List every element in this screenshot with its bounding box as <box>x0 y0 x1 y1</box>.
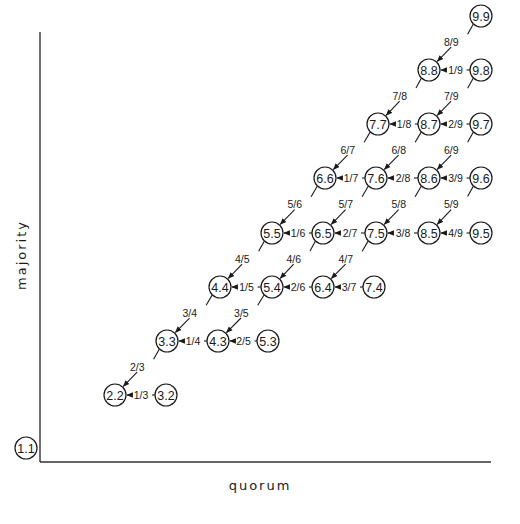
edge-7.6-to-6.5: 5/7 <box>331 186 368 224</box>
edge-5.5-to-4.4: 4/5 <box>228 241 264 278</box>
edge-9.7-to-8.7: 2/9 <box>441 118 470 130</box>
node-label: 4.3 <box>209 335 226 349</box>
node-label: 6.6 <box>316 172 333 186</box>
edge-7.5-to-6.5: 2/7 <box>335 227 365 239</box>
node-label: 9.8 <box>472 64 489 78</box>
node-4.3: 4.3 <box>207 330 229 352</box>
node-label: 5.5 <box>263 227 280 241</box>
node-3.2: 3.2 <box>155 384 177 406</box>
node-label: 6.4 <box>314 281 331 295</box>
edge-9.6-to-8.5: 5/9 <box>437 186 473 224</box>
node-label: 4.4 <box>211 281 228 295</box>
edge-label: 2/9 <box>448 118 463 130</box>
node-label: 7.7 <box>369 118 386 132</box>
edge-label: 1/3 <box>134 389 149 401</box>
node-label: 7.6 <box>367 172 384 186</box>
node-1.1: 1.1 <box>15 437 37 459</box>
edge-label: 5/7 <box>339 198 354 210</box>
edge-label: 2/7 <box>343 227 358 239</box>
node-7.5: 7.5 <box>365 222 387 244</box>
edge-label: 1/8 <box>397 118 412 130</box>
edge-label: 4/7 <box>339 253 354 265</box>
node-label: 9.9 <box>472 10 489 24</box>
edge-label: 1/4 <box>186 335 201 347</box>
node-label: 7.4 <box>365 281 382 295</box>
node-6.5: 6.5 <box>312 222 334 244</box>
edge-9.8-to-8.8: 1/9 <box>441 64 470 76</box>
node-label: 7.5 <box>367 227 384 241</box>
edge-9.9-to-8.8: 8/9 <box>437 24 473 61</box>
node-8.5: 8.5 <box>418 222 440 244</box>
edge-3.2-to-2.2: 1/3 <box>127 389 155 401</box>
edge-8.6-to-7.5: 5/8 <box>384 186 421 224</box>
edge-label: 7/8 <box>393 90 408 102</box>
edge-label: 6/9 <box>444 144 459 156</box>
node-4.4: 4.4 <box>209 276 231 298</box>
edge-6.6-to-5.5: 5/6 <box>280 186 317 224</box>
node-7.4: 7.4 <box>363 276 385 298</box>
edge-label: 7/9 <box>444 90 459 102</box>
node-7.7: 7.7 <box>367 113 389 135</box>
node-5.4: 5.4 <box>261 276 283 298</box>
node-6.4: 6.4 <box>312 276 334 298</box>
edge-9.6-to-8.6: 3/9 <box>441 172 470 184</box>
node-6.6: 6.6 <box>314 167 336 189</box>
node-label: 8.5 <box>420 227 437 241</box>
edge-7.7-to-6.6: 6/7 <box>333 132 370 170</box>
edge-7.5-to-6.4: 4/7 <box>331 241 368 279</box>
node-2.2: 2.2 <box>104 384 126 406</box>
edge-label: 4/9 <box>448 227 463 239</box>
node-label: 6.5 <box>314 227 331 241</box>
edge-4.3-to-3.3: 1/4 <box>179 335 207 347</box>
edge-label: 2/3 <box>130 361 145 373</box>
node-label: 5.4 <box>263 281 280 295</box>
edge-5.4-to-4.4: 1/5 <box>232 281 261 293</box>
edge-label: 4/5 <box>235 253 250 265</box>
nodes-layer: 1.12.23.23.34.35.34.45.46.47.45.56.57.58… <box>15 5 492 459</box>
node-7.6: 7.6 <box>365 167 387 189</box>
edge-8.7-to-7.6: 6/8 <box>384 132 421 170</box>
node-9.6: 9.6 <box>470 167 492 189</box>
node-label: 9.7 <box>472 118 489 132</box>
edge-label: 3/5 <box>234 307 249 319</box>
node-label: 9.5 <box>472 227 489 241</box>
node-label: 9.6 <box>472 172 489 186</box>
edge-5.4-to-4.3: 3/5 <box>226 295 264 333</box>
node-label: 3.2 <box>157 389 174 403</box>
edge-6.4-to-5.4: 2/6 <box>284 281 312 293</box>
node-5.3: 5.3 <box>257 330 279 352</box>
edge-5.3-to-4.3: 2/5 <box>230 335 257 347</box>
node-9.7: 9.7 <box>470 113 492 135</box>
x-axis-label: quorum <box>229 478 292 493</box>
edge-label: 4/6 <box>287 253 302 265</box>
edge-6.5-to-5.4: 4/6 <box>280 241 315 278</box>
edge-label: 3/7 <box>342 281 357 293</box>
edge-label: 1/5 <box>239 281 254 293</box>
edge-8.6-to-7.6: 2/8 <box>388 172 418 184</box>
node-8.8: 8.8 <box>418 59 440 81</box>
node-label: 8.8 <box>420 64 437 78</box>
quorum-majority-diagram: quorum majority 1/32/31/42/53/43/51/52/6… <box>0 0 520 524</box>
edge-label: 3/9 <box>448 172 463 184</box>
edge-label: 2/5 <box>236 335 251 347</box>
edge-label: 1/6 <box>291 227 306 239</box>
node-label: 2.2 <box>106 389 123 403</box>
edge-9.7-to-8.6: 6/9 <box>437 132 473 169</box>
node-8.7: 8.7 <box>418 113 440 135</box>
node-9.5: 9.5 <box>470 222 492 244</box>
node-8.6: 8.6 <box>418 167 440 189</box>
edge-label: 1/9 <box>448 64 463 76</box>
edge-7.6-to-6.6: 1/7 <box>337 172 365 184</box>
edge-6.5-to-5.5: 1/6 <box>284 227 312 239</box>
edge-label: 5/8 <box>392 198 407 210</box>
edge-9.8-to-8.7: 7/9 <box>437 78 473 115</box>
edge-7.4-to-6.4: 3/7 <box>335 281 363 293</box>
node-label: 5.3 <box>259 335 276 349</box>
node-5.5: 5.5 <box>261 222 283 244</box>
edge-label: 5/6 <box>288 198 303 210</box>
edge-label: 3/8 <box>396 227 411 239</box>
edge-label: 6/7 <box>341 144 356 156</box>
edge-label: 5/9 <box>444 198 459 210</box>
edge-label: 6/8 <box>392 144 407 156</box>
y-axis-label: majority <box>14 220 29 290</box>
